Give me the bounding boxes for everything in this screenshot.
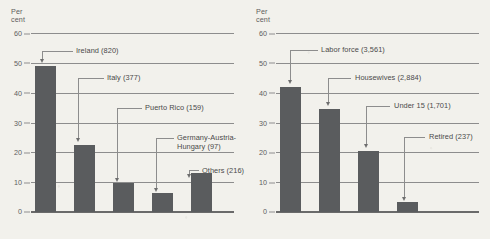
arrowhead-labor-force	[288, 80, 292, 84]
callout-germany-austria-hungary: Germany-Austria- Hungary (97)	[177, 133, 236, 151]
leader-housewives-horizontal	[328, 78, 351, 79]
bar-under-15	[358, 151, 379, 212]
arrowhead-germany	[154, 188, 158, 192]
y-tick-20: 20	[14, 148, 31, 157]
chart-panel-right: Per cent 60 50 40 30 20 10 0	[245, 0, 490, 239]
callout-italy: Italy (377)	[107, 73, 140, 82]
bar-puerto-rico	[113, 183, 134, 212]
arrowhead-under-15	[364, 144, 368, 148]
leader-housewives-vertical	[328, 78, 329, 104]
y-tick-30: 30	[14, 118, 31, 127]
y-tick-50: 50	[259, 58, 276, 67]
leader-ireland-horizontal	[42, 51, 73, 52]
leader-germany-vertical	[156, 138, 157, 190]
y-tick-10: 10	[14, 178, 31, 187]
callout-retired: Retired (237)	[429, 132, 473, 141]
callout-under-15: Under 15 (1,701)	[394, 101, 451, 110]
bar-germany-austria-hungary	[152, 193, 173, 212]
leader-puerto-rico-vertical	[117, 108, 118, 180]
leader-under-15-horizontal	[366, 106, 390, 107]
y-tick-10: 10	[259, 178, 276, 187]
leader-retired-vertical	[404, 137, 405, 199]
chart-panel-left: Per cent 60 50 40 30 20 10 0	[0, 0, 245, 239]
gridline-50: 50	[276, 63, 479, 64]
bar-ireland	[35, 66, 56, 212]
gridline-60: 60	[276, 33, 479, 34]
plot-area-left: 60 50 40 30 20 10 0	[31, 33, 234, 212]
bar-others	[191, 173, 212, 212]
bar-retired	[397, 202, 418, 212]
arrowhead-ireland	[40, 59, 44, 63]
gridline-60: 60	[31, 33, 234, 34]
y-tick-60: 60	[14, 29, 31, 38]
leader-germany-horizontal	[156, 138, 174, 139]
leader-others-horizontal	[189, 170, 199, 171]
gridline-30: 30	[31, 123, 234, 124]
gridline-50: 50	[31, 63, 234, 64]
leader-puerto-rico-horizontal	[117, 108, 142, 109]
arrowhead-italy	[76, 138, 80, 142]
y-tick-50: 50	[14, 58, 31, 67]
y-tick-40: 40	[259, 88, 276, 97]
bar-housewives	[319, 109, 340, 212]
leader-labor-force-horizontal	[290, 50, 318, 51]
leader-italy-horizontal	[78, 78, 104, 79]
arrowhead-puerto-rico	[115, 178, 119, 182]
callout-labor-force: Labor force (3,561)	[321, 45, 385, 54]
gridline-30: 30	[276, 123, 479, 124]
plot-area-right: 60 50 40 30 20 10 0	[276, 33, 479, 212]
gridline-40: 40	[31, 93, 234, 94]
callout-housewives: Housewives (2,884)	[355, 73, 421, 82]
arrowhead-retired	[402, 197, 406, 201]
y-tick-20: 20	[259, 148, 276, 157]
leader-under-15-vertical	[366, 106, 367, 146]
y-tick-0: 0	[18, 207, 31, 216]
gridline-40: 40	[276, 93, 479, 94]
arrowhead-others	[187, 174, 191, 178]
y-axis-caption: Per cent	[256, 8, 270, 25]
y-tick-40: 40	[14, 88, 31, 97]
y-tick-60: 60	[259, 29, 276, 38]
y-tick-30: 30	[259, 118, 276, 127]
callout-others: Others (216)	[202, 166, 244, 175]
callout-ireland: Ireland (820)	[76, 46, 119, 55]
bar-italy	[74, 145, 95, 212]
leader-retired-horizontal	[404, 137, 425, 138]
arrowhead-housewives	[326, 102, 330, 106]
figure-two-bar-charts: Per cent 60 50 40 30 20 10 0	[0, 0, 490, 239]
y-tick-0: 0	[263, 207, 276, 216]
y-axis-caption: Per cent	[11, 8, 25, 25]
callout-puerto-rico: Puerto Rico (159)	[145, 103, 204, 112]
bar-labor-force	[280, 87, 301, 212]
leader-labor-force-vertical	[290, 50, 291, 82]
gridline-20: 20	[31, 152, 234, 153]
leader-italy-vertical	[78, 78, 79, 140]
